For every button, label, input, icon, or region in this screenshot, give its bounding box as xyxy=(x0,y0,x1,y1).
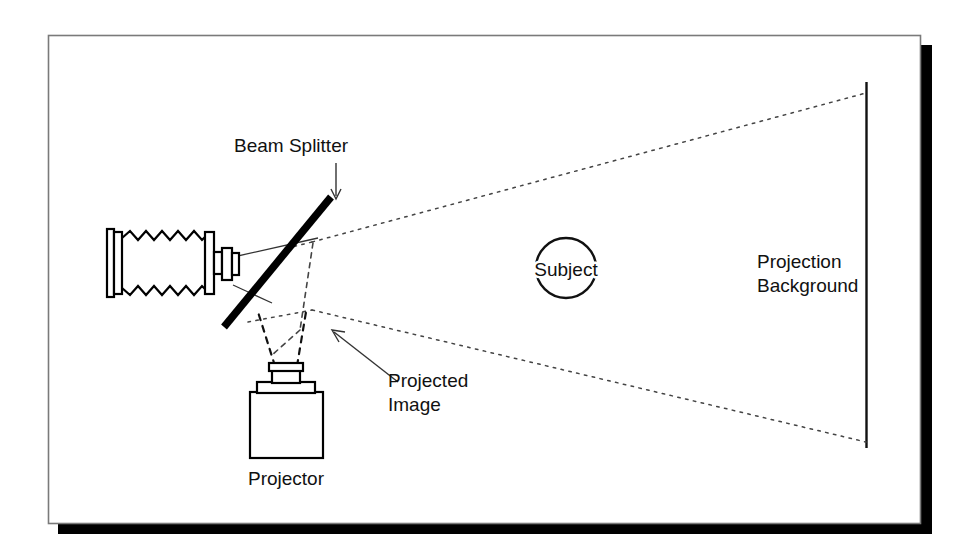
camera-lens-collar xyxy=(214,252,222,274)
projection-background-label-line2: Background xyxy=(757,275,858,296)
projected-image-label-line1: Projected xyxy=(388,370,468,391)
figure-root: Beam Splitter Subject Projection Backgro… xyxy=(0,0,968,558)
projector-label: Projector xyxy=(248,468,325,489)
camera-lens-barrel xyxy=(222,248,232,280)
beam-splitter-label: Beam Splitter xyxy=(234,135,349,156)
optical-diagram: Beam Splitter Subject Projection Backgro… xyxy=(0,0,968,558)
subject-label: Subject xyxy=(534,259,598,280)
camera-rear-plate-inner xyxy=(114,232,122,294)
camera-lens-front-ring xyxy=(232,253,239,275)
camera-front-standard xyxy=(205,232,214,294)
projected-image-label-line2: Image xyxy=(388,394,441,415)
projector-housing xyxy=(250,392,323,458)
projection-background-label-line1: Projection xyxy=(757,251,842,272)
projector-lens-ring xyxy=(269,363,303,371)
